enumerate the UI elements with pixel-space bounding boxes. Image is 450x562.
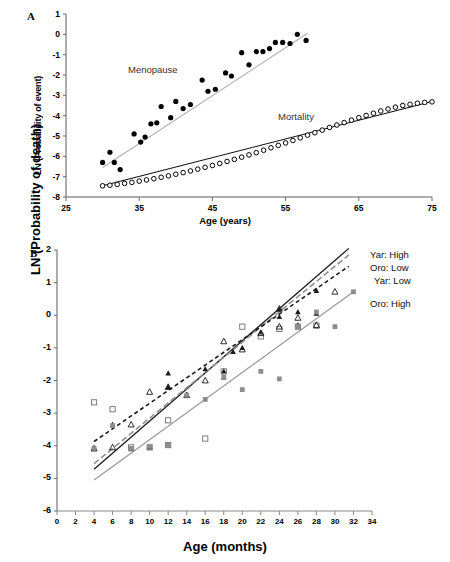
panel-a-point-menopause: [223, 70, 228, 75]
figure-container: A LN (Probability of event) Age (years) …: [0, 0, 450, 562]
panel-b-point-oro--high: [184, 393, 189, 398]
panel-a-point-menopause: [267, 46, 272, 51]
panel-a-plot-area: [0, 0, 450, 228]
panel-b-point-yar--low: [221, 338, 227, 344]
panel-b-point-yar--low: [202, 377, 208, 383]
panel-a-point-menopause: [159, 104, 164, 109]
panel-a-point-mortality: [181, 170, 186, 175]
panel-a-point-mortality: [166, 174, 171, 179]
panel-b-point-yar--low: [295, 315, 301, 321]
panel-a-point-mortality: [408, 102, 413, 107]
panel-b-point-oro--high: [314, 310, 319, 315]
panel-a-point-menopause: [100, 160, 105, 165]
panel-b-point-oro--low: [91, 400, 96, 405]
panel-a-point-menopause: [205, 89, 210, 94]
panel-b-point-oro--high: [221, 375, 226, 380]
panel-b-point-yar--high: [295, 309, 301, 314]
panel-b-y-axis-label: LN (Probability of death): [28, 124, 43, 275]
panel-a-point-menopause: [138, 140, 143, 145]
panel-a: A LN (Probability of event) Age (years) …: [0, 0, 450, 228]
panel-a-point-mortality: [320, 128, 325, 133]
panel-b-point-yar--high: [277, 314, 283, 319]
panel-b-point-yar--high: [230, 349, 236, 354]
panel-a-annotation-mortality: Mortality: [278, 111, 314, 122]
panel-b-point-oro--low: [258, 334, 263, 339]
panel-b-point-oro--high: [258, 369, 263, 374]
panel-a-point-mortality: [378, 109, 383, 114]
panel-a-point-menopause: [112, 160, 117, 165]
panel-b-point-oro--low: [166, 418, 171, 423]
panel-a-point-menopause: [118, 167, 123, 172]
panel-a-point-mortality: [327, 125, 332, 130]
panel-a-point-mortality: [430, 100, 435, 105]
panel-a-point-mortality: [400, 103, 405, 108]
panel-a-point-mortality: [415, 101, 420, 106]
panel-a-point-mortality: [108, 183, 113, 188]
panel-a-point-mortality: [393, 105, 398, 110]
panel-b-point-oro--high: [295, 324, 300, 329]
panel-b-point-oro--high: [92, 446, 97, 451]
panel-a-point-mortality: [203, 165, 208, 170]
panel-a-point-mortality: [137, 179, 142, 184]
legend-item-oro-high: Oro: High: [370, 298, 411, 309]
panel-a-point-menopause: [280, 40, 285, 45]
panel-a-point-mortality: [291, 138, 296, 143]
panel-a-point-menopause: [273, 40, 278, 45]
panel-a-point-menopause: [254, 49, 259, 54]
panel-a-point-mortality: [188, 169, 193, 174]
panel-a-point-mortality: [349, 118, 354, 123]
panel-a-point-menopause: [131, 131, 136, 136]
panel-b-point-yar--low: [332, 289, 338, 295]
panel-a-point-mortality: [225, 159, 230, 164]
panel-a-point-mortality: [386, 107, 391, 112]
panel-b-point-oro--low: [203, 436, 208, 441]
panel-b-point-yar--high: [165, 370, 171, 375]
panel-a-point-mortality: [342, 120, 347, 125]
panel-a-point-mortality: [195, 167, 200, 172]
panel-a-point-mortality: [357, 115, 362, 120]
panel-b-point-oro--low: [240, 324, 245, 329]
panel-a-point-mortality: [261, 148, 266, 153]
panel-a-point-menopause: [200, 77, 205, 82]
panel-a-point-mortality: [269, 145, 274, 150]
panel-a-point-mortality: [210, 163, 215, 168]
panel-a-point-mortality: [305, 133, 310, 138]
panel-a-point-menopause: [287, 41, 292, 46]
legend-item-yar-high: Yar: High: [370, 249, 409, 260]
panel-a-point-menopause: [295, 32, 300, 37]
panel-a-point-mortality: [335, 123, 340, 128]
panel-a-point-menopause: [168, 115, 173, 120]
panel-a-point-menopause: [142, 134, 147, 139]
panel-a-point-mortality: [122, 181, 127, 186]
panel-a-point-menopause: [239, 50, 244, 55]
panel-b-point-oro--high: [277, 376, 282, 381]
panel-b-point-oro--low: [110, 407, 115, 412]
panel-a-point-menopause: [303, 38, 308, 43]
panel-a-point-mortality: [100, 184, 105, 189]
panel-a-point-mortality: [276, 143, 281, 148]
panel-a-point-menopause: [181, 106, 186, 111]
panel-a-trendline-mortality: [103, 101, 432, 185]
panel-b-point-oro--high: [110, 423, 115, 428]
panel-b-point-yar--low: [128, 421, 134, 427]
panel-a-point-mortality: [298, 136, 303, 141]
panel-b-point-oro--high: [240, 387, 245, 392]
panel-a-point-mortality: [217, 161, 222, 166]
panel-a-annotation-menopause: Menopause: [128, 64, 178, 75]
panel-a-point-mortality: [144, 178, 149, 183]
panel-b-point-yar--high: [202, 366, 208, 371]
panel-b-line-oro--high: [94, 292, 353, 480]
legend-item-oro-low: Oro: Low: [370, 262, 409, 273]
panel-a-point-mortality: [130, 180, 135, 185]
panel-b-point-oro--high: [166, 443, 171, 448]
panel-b-point-oro--high: [203, 397, 208, 402]
panel-b-point-oro--high: [129, 446, 134, 451]
panel-a-point-mortality: [247, 153, 252, 158]
panel-a-point-mortality: [422, 100, 427, 105]
panel-a-point-mortality: [239, 155, 244, 160]
panel-a-point-mortality: [232, 157, 237, 162]
panel-a-point-menopause: [173, 99, 178, 104]
caption-fragment: [0, 552, 450, 562]
panel-a-point-menopause: [148, 121, 153, 126]
panel-a-point-menopause: [229, 73, 234, 78]
